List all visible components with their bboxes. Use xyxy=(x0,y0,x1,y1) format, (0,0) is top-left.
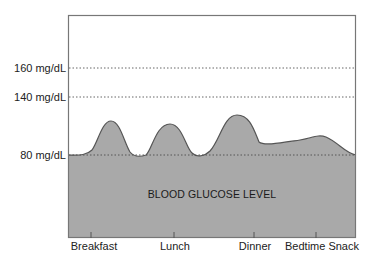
xlabel-dinner: Dinner xyxy=(239,240,272,252)
inner-label: BLOOD GLUCOSE LEVEL xyxy=(148,188,277,200)
blood-glucose-chart: 160 mg/dL 140 mg/dL 80 mg/dL BLOOD GLUCO… xyxy=(0,0,374,267)
ylabel-140: 140 mg/dL xyxy=(14,91,66,103)
xlabel-bedtime-snack: Bedtime Snack xyxy=(285,240,359,252)
ylabel-160: 160 mg/dL xyxy=(14,62,66,74)
ylabel-80: 80 mg/dL xyxy=(20,149,66,161)
glucose-area xyxy=(68,115,356,238)
xlabel-lunch: Lunch xyxy=(160,240,190,252)
xlabel-breakfast: Breakfast xyxy=(71,240,117,252)
